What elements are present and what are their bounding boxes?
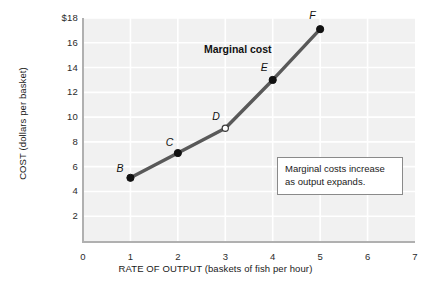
x-tick: 6 bbox=[353, 246, 383, 264]
y-tick: 10 bbox=[28, 111, 78, 123]
point-label-d: D bbox=[212, 110, 220, 122]
x-tick: 1 bbox=[115, 246, 145, 264]
y-tick-label: 2 bbox=[28, 210, 78, 221]
x-tick-label: 7 bbox=[412, 251, 417, 262]
x-tick: 7 bbox=[400, 246, 430, 264]
annotation-line: as output expands. bbox=[285, 176, 396, 189]
point-label-e: E bbox=[261, 61, 268, 73]
y-tick: 6 bbox=[28, 161, 78, 173]
y-axis-line bbox=[82, 18, 84, 243]
x-tick-label: 5 bbox=[317, 251, 322, 262]
point-label-b: B bbox=[116, 162, 123, 174]
y-tick: 8 bbox=[28, 136, 78, 148]
series-label: Marginal cost bbox=[204, 43, 272, 55]
x-tick: 2 bbox=[163, 246, 193, 264]
y-tick-label: 12 bbox=[28, 86, 78, 97]
x-tick-label: 6 bbox=[365, 251, 370, 262]
point-label-f: F bbox=[309, 9, 315, 21]
y-tick-label: 14 bbox=[28, 62, 78, 73]
x-tick: 0 bbox=[68, 246, 98, 264]
data-point-e bbox=[269, 76, 276, 83]
y-tick: $18 bbox=[28, 12, 78, 24]
annotation-line: Marginal costs increase bbox=[285, 163, 396, 176]
annotation-box: Marginal costs increaseas output expands… bbox=[277, 157, 403, 195]
y-tick: 4 bbox=[28, 185, 78, 197]
data-point-c bbox=[174, 149, 181, 156]
x-tick-label: 1 bbox=[128, 251, 133, 262]
data-point-f bbox=[317, 26, 324, 33]
x-axis-title: RATE OF OUTPUT (baskets of fish per hour… bbox=[0, 263, 431, 274]
x-tick-label: 4 bbox=[270, 251, 275, 262]
y-tick-label: $18 bbox=[28, 12, 78, 23]
y-axis-title: COST (dollars per basket) bbox=[17, 24, 28, 224]
x-axis-ticks: 01234567 bbox=[0, 246, 431, 260]
y-tick: 16 bbox=[28, 37, 78, 49]
y-tick-label: 4 bbox=[28, 185, 78, 196]
y-tick-label: 16 bbox=[28, 37, 78, 48]
y-tick-label: 10 bbox=[28, 111, 78, 122]
y-tick: 14 bbox=[28, 62, 78, 74]
y-tick-label: 6 bbox=[28, 161, 78, 172]
y-tick: 2 bbox=[28, 210, 78, 222]
x-axis-line bbox=[83, 241, 415, 243]
x-tick: 3 bbox=[210, 246, 240, 264]
y-tick: 12 bbox=[28, 86, 78, 98]
x-tick: 5 bbox=[305, 246, 335, 264]
x-tick-label: 0 bbox=[80, 251, 85, 262]
data-point-b bbox=[127, 174, 134, 181]
x-tick-label: 3 bbox=[223, 251, 228, 262]
marginal-cost-chart: 246810121416$18 01234567 COST (dollars p… bbox=[0, 0, 431, 292]
y-tick-label: 8 bbox=[28, 136, 78, 147]
x-tick: 4 bbox=[258, 246, 288, 264]
point-label-c: C bbox=[166, 136, 174, 148]
data-point-d bbox=[222, 125, 228, 131]
x-tick-label: 2 bbox=[175, 251, 180, 262]
